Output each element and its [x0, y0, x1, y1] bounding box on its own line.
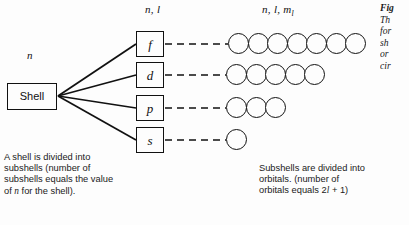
orbital-circle: [345, 33, 366, 54]
subshell-label-p: p: [147, 102, 154, 115]
orbital-circle: [226, 97, 247, 118]
figure-caption-truncated: Fig Th for sh or cir: [380, 2, 409, 72]
orbital-circle: [265, 64, 286, 85]
subshell-label-d: d: [147, 69, 154, 82]
orbital-circle: [226, 64, 247, 85]
subshell-label-s: s: [147, 134, 152, 147]
orbital-caption-line-3-pre: orbitals equals 2: [259, 185, 327, 195]
orbital-circle: [246, 64, 267, 85]
figure-caption-line-1: Fig: [380, 2, 409, 14]
shell-caption-line-4-post: for the shell).: [19, 186, 75, 196]
subshell-box-f: f: [136, 31, 164, 57]
orbital-circle: [326, 33, 347, 54]
orbital-circle: [306, 33, 327, 54]
fan-line-s: [58, 96, 136, 140]
subshell-box-p: p: [136, 95, 164, 121]
orbital-row-p: [226, 97, 285, 118]
shell-box-label: Shell: [20, 91, 44, 102]
orbital-circle: [226, 129, 247, 150]
subshell-to-orbital-dashes: [165, 44, 228, 140]
figure-caption-line-5: or: [380, 48, 409, 60]
orbital-circle: [246, 97, 267, 118]
figure-caption-line-2: Th: [380, 14, 409, 26]
shell-caption-line-4-pre: of: [4, 186, 14, 196]
fan-line-d: [58, 75, 136, 96]
figure-canvas: n, l n, l, ml n Shell f d p s A shell is…: [0, 0, 409, 225]
column-header-subshell: n, l: [145, 3, 160, 15]
shell-caption-line-3: subshells equals the value: [4, 174, 144, 185]
orbital-circle: [304, 64, 325, 85]
orbital-circle: [267, 33, 288, 54]
subshell-label-f: f: [148, 38, 152, 51]
figure-caption-line-3: for: [380, 25, 409, 37]
orbital-caption-line-2: orbitals. (number of: [259, 174, 409, 185]
shell-caption: A shell is divided into subshells (numbe…: [4, 152, 144, 197]
orbital-circle: [285, 64, 306, 85]
shell-quantum-number-label: n: [27, 49, 33, 61]
shell-box: Shell: [7, 83, 57, 110]
fan-line-f: [58, 44, 136, 96]
shell-caption-line-4: of n for the shell).: [4, 186, 144, 197]
orbital-caption: Subshells are divided into orbitals. (nu…: [259, 163, 409, 197]
orbital-row-d: [226, 64, 324, 85]
orbital-row-f: [228, 33, 365, 54]
shell-caption-line-1: A shell is divided into: [4, 152, 144, 163]
orbital-circle: [248, 33, 269, 54]
orbital-circle: [265, 97, 286, 118]
orbital-row-s: [226, 129, 246, 150]
orbital-circle: [287, 33, 308, 54]
shell-caption-line-2: subshells (number of: [4, 163, 144, 174]
orbital-circle: [228, 33, 249, 54]
shell-to-subshell-fan: [58, 44, 136, 140]
figure-caption-line-6: cir: [380, 60, 409, 72]
subshell-box-s: s: [136, 127, 164, 153]
column-header-orbital: n, l, ml: [262, 3, 294, 18]
orbital-caption-line-3-post: + 1): [329, 185, 348, 195]
orbital-header-text: n, l, m: [262, 3, 292, 15]
orbital-caption-line-1: Subshells are divided into: [259, 163, 409, 174]
fan-line-p: [58, 96, 136, 108]
orbital-caption-line-3: orbitals equals 2l + 1): [259, 185, 409, 196]
orbital-header-subscript: l: [292, 9, 295, 18]
figure-caption-line-4: sh: [380, 37, 409, 49]
subshell-box-d: d: [136, 62, 164, 88]
